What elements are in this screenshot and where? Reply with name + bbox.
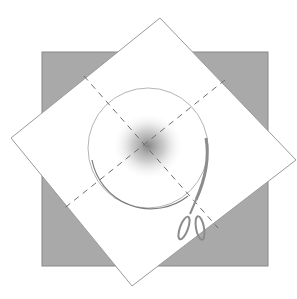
center-smudge — [112, 112, 184, 180]
paper-fold-drawing — [0, 0, 297, 299]
illustration — [0, 0, 297, 299]
